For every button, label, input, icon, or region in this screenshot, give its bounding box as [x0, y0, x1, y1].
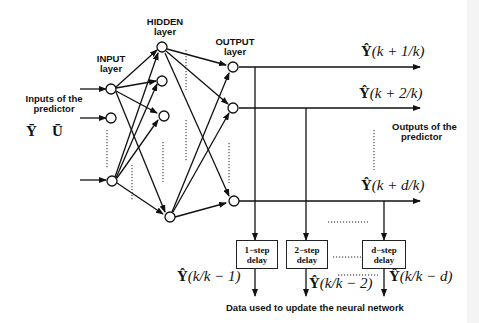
delayed-output-1-args: (k/k − 1) [188, 268, 241, 284]
delayed-output-2-args: (k/k − 2) [320, 275, 373, 291]
delayed-output-d-expr: Ŷ(k/k − d) [389, 268, 452, 285]
output-2-symbol: Ŷ [359, 85, 370, 101]
output-layer-label: OUTPUT layer [210, 37, 260, 57]
delay-d-step: d−stepdelay [362, 240, 406, 269]
inputs-label-line2: predictor [22, 104, 86, 114]
hidden-layer-label: HIDDEN layer [140, 17, 190, 37]
output-d-args: (k + d/k) [372, 177, 425, 193]
delayed-output-2-symbol: Ŷ [309, 275, 320, 291]
predictor-diagram: INPUT layer HIDDEN layer OUTPUT layer In… [0, 0, 479, 323]
delay-d-line1: d−step [371, 245, 397, 255]
inputs-label: Inputs of the predictor [22, 94, 86, 114]
delayed-output-1-symbol: Ŷ [177, 268, 188, 284]
delayed-output-d-args: (k/k − d) [400, 268, 453, 284]
delayed-output-1-expr: Ŷ(k/k − 1) [177, 268, 240, 285]
delay-1-line1: 1−step [244, 245, 269, 255]
output-1-symbol: Ŷ [361, 43, 372, 59]
input-layer-label: INPUT layer [90, 54, 132, 74]
output-d-symbol: Ŷ [361, 177, 372, 193]
output-1-args: (k + 1/k) [372, 43, 425, 59]
delayed-output-2-expr: Ŷ(k/k − 2) [309, 275, 372, 292]
delay-2-step: 2−stepdelay [286, 240, 328, 269]
outputs-label: Outputs of the predictor [392, 122, 466, 142]
delay-2-line1: 2−step [294, 245, 319, 255]
output-d-expr: Ŷ(k + d/k) [361, 177, 424, 194]
delay-2-line2: delay [294, 255, 319, 265]
input-symbol-u: Ū [52, 123, 63, 140]
input-layer-subtitle: layer [90, 64, 132, 74]
outputs-label-line2: predictor [392, 132, 466, 142]
delay-1-line2: delay [244, 255, 269, 265]
output-2-args: (k + 2/k) [370, 85, 423, 101]
delay-1-step: 1−stepdelay [236, 240, 278, 269]
output-1-expr: Ŷ(k + 1/k) [361, 43, 424, 60]
footer-caption: Data used to update the neural network [226, 303, 426, 313]
delayed-output-d-symbol: Ŷ [389, 268, 400, 284]
delay-d-line2: delay [371, 255, 397, 265]
input-symbol-y: Ȳ [26, 123, 37, 140]
output-layer-subtitle: layer [210, 47, 260, 57]
output-2-expr: Ŷ(k + 2/k) [359, 85, 422, 102]
hidden-layer-subtitle: layer [140, 27, 190, 37]
